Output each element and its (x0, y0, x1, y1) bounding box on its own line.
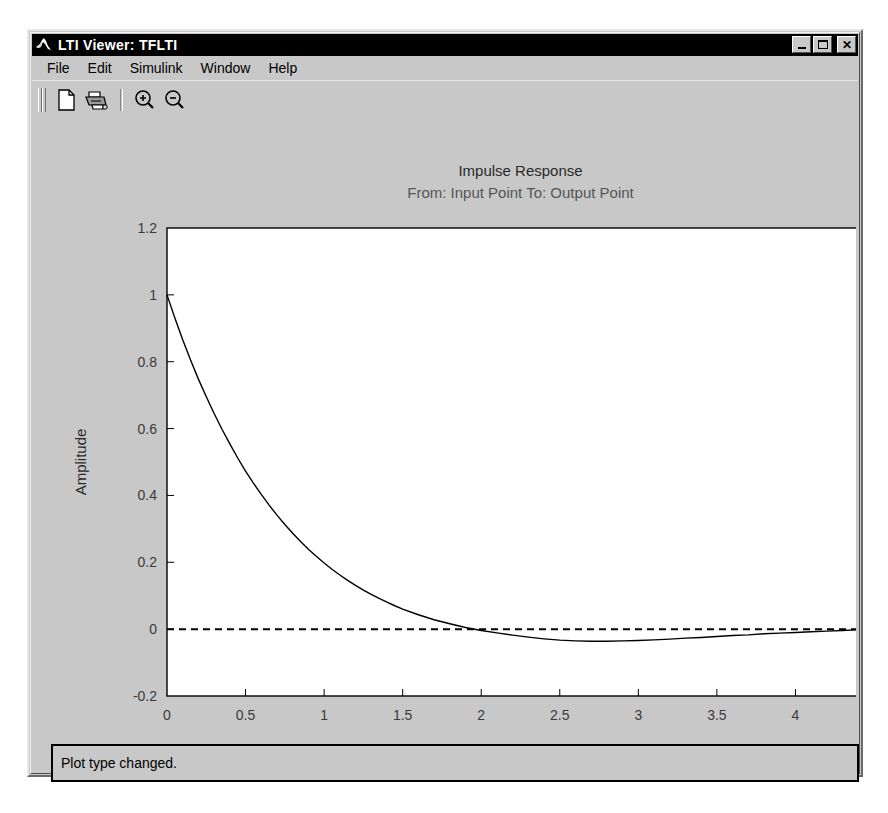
y-tick-label: 0.8 (138, 354, 158, 370)
toolbar (32, 80, 858, 118)
maximize-button[interactable] (813, 36, 832, 53)
x-tick-label: 4 (792, 707, 800, 723)
print-button[interactable] (82, 87, 110, 113)
maximize-icon (818, 40, 828, 49)
chart-subtitle: From: Input Point To: Output Point (407, 184, 634, 201)
x-tick-label: 2 (477, 707, 485, 723)
status-bar: Plot type changed. (51, 744, 859, 782)
minimize-button[interactable] (792, 36, 811, 53)
y-tick-label: 0.2 (138, 554, 158, 570)
zoom-out-button[interactable] (161, 87, 189, 113)
toolbar-separator (120, 89, 123, 111)
plot-panel[interactable]: Impulse ResponseFrom: Input Point To: Ou… (34, 118, 856, 732)
y-tick-label: 1 (149, 287, 157, 303)
x-tick-label: 3.5 (707, 707, 727, 723)
y-axis-label: Amplitude (72, 429, 89, 496)
magnifier-plus-icon (134, 89, 156, 111)
minimize-icon (798, 47, 806, 49)
x-tick-label: 1.5 (393, 707, 413, 723)
x-tick-label: 2.5 (550, 707, 570, 723)
menu-bar: File Edit Simulink Window Help (32, 56, 858, 80)
window-controls: ✕ (792, 36, 856, 53)
new-document-icon (57, 89, 76, 111)
close-button[interactable]: ✕ (837, 36, 856, 53)
desktop-background: LTI Viewer: TFLTI ✕ File Edit Simulink W… (0, 0, 888, 813)
y-tick-label: -0.2 (133, 688, 157, 704)
menu-item-edit[interactable]: Edit (79, 58, 121, 78)
menu-item-file[interactable]: File (38, 58, 79, 78)
impulse-response-chart[interactable]: Impulse ResponseFrom: Input Point To: Ou… (34, 118, 856, 732)
status-message: Plot type changed. (53, 755, 177, 771)
x-tick-label: 0.5 (236, 707, 256, 723)
menu-item-window[interactable]: Window (192, 58, 260, 78)
x-tick-label: 0 (163, 707, 171, 723)
matlab-membrane-icon (35, 37, 53, 53)
y-tick-label: 1.2 (138, 220, 158, 236)
y-tick-label: 0.4 (138, 487, 158, 503)
x-tick-label: 3 (634, 707, 642, 723)
y-tick-label: 0 (149, 621, 157, 637)
plot-area (167, 228, 856, 696)
lti-viewer-window: LTI Viewer: TFLTI ✕ File Edit Simulink W… (27, 29, 863, 777)
toolbar-grip-handle[interactable] (38, 88, 45, 112)
close-icon: ✕ (842, 40, 852, 50)
printer-icon (84, 89, 108, 111)
menu-item-help[interactable]: Help (259, 58, 306, 78)
menu-item-simulink[interactable]: Simulink (121, 58, 192, 78)
magnifier-minus-icon (164, 89, 186, 111)
new-document-button[interactable] (52, 87, 80, 113)
y-tick-label: 0.6 (138, 421, 158, 437)
zoom-in-button[interactable] (131, 87, 159, 113)
chart-title: Impulse Response (458, 162, 582, 179)
window-title: LTI Viewer: TFLTI (58, 37, 177, 53)
x-tick-label: 1 (320, 707, 328, 723)
title-bar[interactable]: LTI Viewer: TFLTI ✕ (32, 34, 858, 56)
